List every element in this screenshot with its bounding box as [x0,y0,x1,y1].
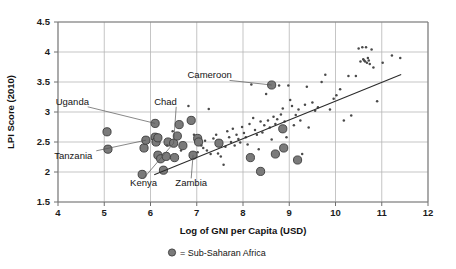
data-point-ssa [215,139,223,147]
data-point [209,153,212,156]
y-tick-label: 2.5 [37,136,51,147]
legend-label: = Sub-Saharan Africa [180,248,266,258]
x-tick-label: 4 [55,207,61,218]
data-point [280,113,283,116]
data-point [282,107,285,110]
data-point-ssa [162,152,170,160]
data-point [272,116,275,119]
data-point [355,75,358,78]
y-tick-label: 3.5 [37,76,51,87]
data-point [193,134,196,137]
data-point-ssa [140,144,148,152]
data-point [324,74,327,77]
data-point [357,47,360,50]
data-point [202,147,205,150]
data-point [391,54,394,57]
data-point [339,88,342,91]
data-point [294,114,297,117]
ssa-dot-icon [168,249,175,256]
x-tick-label: 5 [102,207,108,218]
annotation-label: Uganda [56,96,90,107]
data-point [171,130,174,133]
axis-ticks: 4567891011121.522.533.544.5 [37,16,434,218]
data-point [291,105,294,108]
data-point [297,108,300,111]
data-point [204,140,207,143]
data-point-ssa [179,142,187,150]
annotation-label: Kenya [130,177,158,188]
x-tick-label: 8 [240,207,245,218]
annotation-label: Cameroon [188,69,232,80]
data-point [311,101,314,104]
data-point [293,124,296,127]
data-point [367,57,370,60]
x-tick-label: 10 [330,207,341,218]
data-point [376,100,379,103]
data-point [248,123,251,126]
data-point [220,155,223,158]
data-point-ssa [187,116,195,124]
data-point [329,108,332,111]
data-point [232,128,235,131]
data-point [241,126,244,129]
data-point [180,149,183,152]
data-point [276,118,279,121]
data-point [307,126,310,129]
data-point [250,83,253,86]
x-tick-label: 12 [423,207,434,218]
data-point [289,99,292,102]
x-axis-title: Log of GNI per Capita (USD) [180,225,307,236]
data-point [366,62,369,65]
data-point [246,143,249,146]
data-point [215,134,218,137]
data-point [166,144,169,147]
data-point [206,149,209,152]
chart-container: 4567891011121.522.533.544.5 UgandaChadCa… [0,0,456,269]
x-tick-label: 11 [377,207,388,218]
data-point [320,81,323,84]
annotation-label: Tanzania [54,150,93,161]
data-point [243,132,246,135]
data-point [208,108,211,111]
y-tick-label: 4.5 [37,16,51,27]
legend: = Sub-Saharan Africa [168,248,265,258]
data-point [200,144,203,147]
data-point [254,129,257,132]
x-tick-label: 7 [194,207,199,218]
data-point [196,151,199,154]
data-point-ssa [280,144,288,152]
x-tick-label: 6 [148,207,153,218]
data-point-ssa [271,150,279,158]
data-point [235,134,238,137]
y-tick-label: 3 [45,106,50,117]
data-point-ssa [154,134,162,142]
data-point-ssa [103,128,111,136]
data-point [370,48,373,51]
data-point [257,148,260,151]
data-point [350,114,353,117]
data-point [399,57,402,60]
data-point [368,59,371,62]
data-point-ssa [293,156,301,164]
data-point-ssa [175,121,183,129]
data-point [265,93,268,96]
data-point [233,144,236,147]
data-point [304,104,307,107]
data-point [306,86,309,89]
data-point [226,130,229,133]
data-point [359,60,362,63]
data-point [299,119,302,122]
annotation-label: Chad [154,96,177,107]
data-point [239,141,242,144]
data-point [361,46,364,49]
y-tick-label: 1.5 [37,196,51,207]
data-point [278,84,281,87]
annotation-leader-line [88,107,155,124]
x-tick-label: 9 [287,207,292,218]
data-point-ssa [142,136,150,144]
data-point [372,66,375,69]
data-point [332,98,335,101]
data-point-ssa [246,154,254,162]
y-tick-label: 4 [45,46,51,57]
data-point [343,119,346,122]
